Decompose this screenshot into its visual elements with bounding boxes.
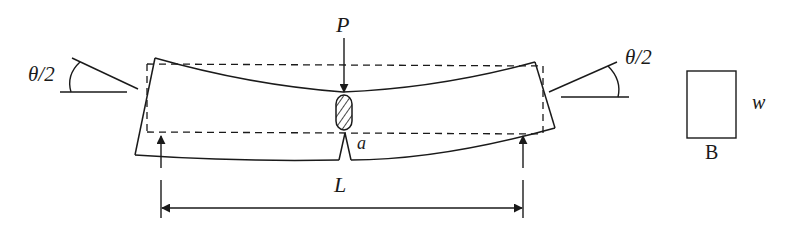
span-label-L: L (334, 174, 346, 196)
width-label-w: w (752, 92, 765, 112)
cross-section-rectangle (687, 71, 736, 138)
right-rotation-angle (549, 62, 629, 97)
three-point-bending-diagram: P a L θ/2 θ/2 w B (0, 0, 796, 235)
right-angle-label: θ/2 (625, 47, 652, 68)
thickness-label-B: B (705, 142, 718, 162)
hatched-indenter (336, 95, 352, 130)
load-label-P: P (336, 14, 349, 36)
diagram-canvas (0, 0, 796, 235)
left-rotation-angle (60, 58, 138, 92)
crack-notch (339, 133, 351, 160)
left-angle-label: θ/2 (28, 64, 55, 85)
crack-depth-label-a: a (357, 134, 366, 152)
